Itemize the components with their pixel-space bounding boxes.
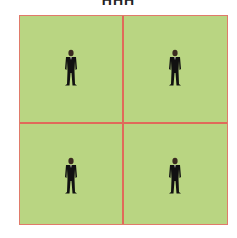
cell-top-right <box>124 16 226 120</box>
person-icon <box>167 157 183 195</box>
grid-field <box>19 15 228 225</box>
person-icon <box>167 49 183 87</box>
cell-bottom-left <box>20 124 122 228</box>
cell-top-left <box>20 16 122 120</box>
person-icon <box>63 157 79 195</box>
cell-bottom-right <box>124 124 226 228</box>
diagram-title: ННН <box>0 0 237 8</box>
person-icon <box>63 49 79 87</box>
